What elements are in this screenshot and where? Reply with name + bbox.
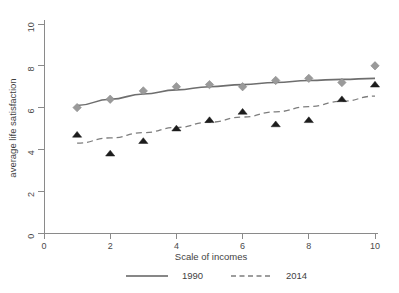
- x-axis-title: Scale of incomes: [175, 251, 248, 262]
- legend-label-2014: 2014: [286, 270, 307, 281]
- data-point-1990-10: [371, 62, 379, 70]
- data-point-1990-7: [272, 76, 280, 84]
- data-point-2014-10: [370, 81, 379, 87]
- x-tick-label: 6: [240, 241, 245, 251]
- data-point-1990-5: [205, 80, 213, 88]
- y-tick-label: 8: [26, 67, 36, 72]
- y-tick-label: 4: [26, 150, 36, 155]
- scatter-plot: 0246810 0246810 Scale of incomes average…: [0, 0, 399, 293]
- chart-figure: 0246810 0246810 Scale of incomes average…: [0, 0, 399, 293]
- chart-legend: 1990 2014: [126, 270, 307, 281]
- x-tick-label: 4: [174, 241, 179, 251]
- x-tick-label: 0: [41, 241, 46, 251]
- data-point-2014-4: [172, 125, 181, 131]
- y-tick-label: 10: [26, 22, 36, 32]
- y-tick-label: 6: [26, 108, 36, 113]
- x-tick-label: 2: [108, 241, 113, 251]
- data-point-1990-8: [305, 74, 313, 82]
- x-axis-ticks: 0246810: [41, 233, 380, 251]
- data-point-2014-1: [73, 131, 82, 137]
- data-point-2014-2: [106, 150, 115, 156]
- fitted-curves: [77, 78, 375, 143]
- y-axis-ticks: 0246810: [26, 22, 44, 239]
- y-tick-label: 0: [26, 234, 36, 239]
- fit-line-1990: [77, 78, 375, 105]
- data-point-markers: [73, 62, 380, 156]
- data-point-2014-6: [238, 108, 247, 114]
- y-axis-title: average life satisfaction: [7, 78, 18, 177]
- data-point-2014-5: [205, 117, 214, 123]
- data-point-2014-9: [337, 96, 346, 102]
- data-point-1990-6: [238, 83, 246, 91]
- y-tick-label: 2: [26, 192, 36, 197]
- x-tick-label: 8: [306, 241, 311, 251]
- legend-label-1990: 1990: [182, 270, 203, 281]
- data-point-2014-3: [139, 138, 148, 144]
- x-tick-label: 10: [370, 241, 380, 251]
- data-point-2014-8: [304, 117, 313, 123]
- data-point-1990-2: [106, 95, 114, 103]
- data-point-2014-7: [271, 121, 280, 127]
- fit-line-2014: [77, 96, 375, 143]
